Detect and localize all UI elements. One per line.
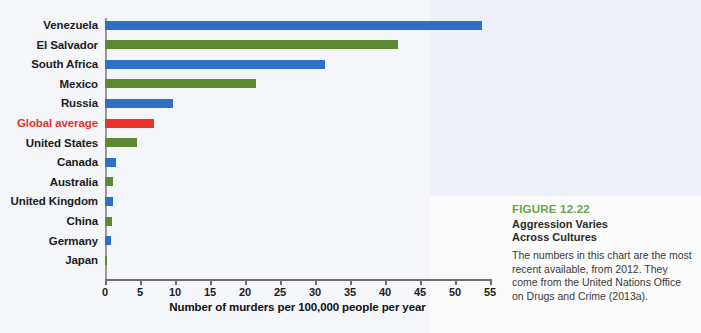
x-tick-label: 30 [309, 286, 321, 298]
x-tick [105, 280, 107, 285]
x-tick [490, 280, 492, 285]
bar [105, 99, 173, 108]
bar [105, 217, 112, 226]
x-tick-label: 45 [414, 286, 426, 298]
bar [105, 158, 116, 167]
x-tick-label: 15 [204, 286, 216, 298]
category-label: Mexico [0, 78, 98, 90]
x-tick [280, 280, 282, 285]
bar-chart: VenezuelaEl SalvadorSouth AfricaMexicoRu… [0, 0, 500, 333]
x-tick-label: 55 [484, 286, 496, 298]
x-tick [245, 280, 247, 285]
category-label: South Africa [0, 58, 98, 70]
figure-caption-body: The numbers in this chart are the most r… [512, 249, 694, 303]
bar [105, 40, 398, 49]
category-label: Japan [0, 254, 98, 266]
category-label: United States [0, 137, 98, 149]
bar [105, 256, 107, 265]
category-label: United Kingdom [0, 195, 98, 207]
x-tick-label: 5 [137, 286, 143, 298]
x-tick [455, 280, 457, 285]
category-label: Germany [0, 235, 98, 247]
figure-title: Aggression Varies Across Cultures [512, 218, 694, 244]
bar [105, 236, 111, 245]
x-axis-title: Number of murders per 100,000 people per… [105, 301, 490, 313]
figure-title-line-1: Aggression Varies [512, 218, 608, 230]
bar [105, 119, 154, 128]
x-axis-line [105, 279, 492, 281]
category-label: Russia [0, 97, 98, 109]
x-tick [385, 280, 387, 285]
x-tick-label: 40 [379, 286, 391, 298]
category-label: Australia [0, 176, 98, 188]
bar [105, 177, 113, 186]
bar [105, 21, 482, 30]
x-tick-label: 25 [274, 286, 286, 298]
figure-page: VenezuelaEl SalvadorSouth AfricaMexicoRu… [0, 0, 701, 333]
x-tick [175, 280, 177, 285]
category-label: Canada [0, 156, 98, 168]
figure-number: FIGURE 12.22 [512, 203, 694, 215]
figure-title-line-2: Across Cultures [512, 231, 597, 243]
x-tick-label: 35 [344, 286, 356, 298]
bar [105, 79, 256, 88]
category-label: Venezuela [0, 19, 98, 31]
x-tick-label: 50 [449, 286, 461, 298]
category-label: China [0, 215, 98, 227]
figure-caption: FIGURE 12.22 Aggression Varies Across Cu… [512, 203, 694, 303]
category-label: El Salvador [0, 39, 98, 51]
x-tick [315, 280, 317, 285]
bar [105, 60, 325, 69]
bar [105, 197, 113, 206]
x-tick-label: 0 [102, 286, 108, 298]
category-label: Global average [0, 117, 98, 129]
x-tick-label: 20 [239, 286, 251, 298]
x-tick [420, 280, 422, 285]
x-tick [210, 280, 212, 285]
x-tick [350, 280, 352, 285]
bar [105, 138, 137, 147]
x-tick-label: 10 [169, 286, 181, 298]
x-tick [140, 280, 142, 285]
